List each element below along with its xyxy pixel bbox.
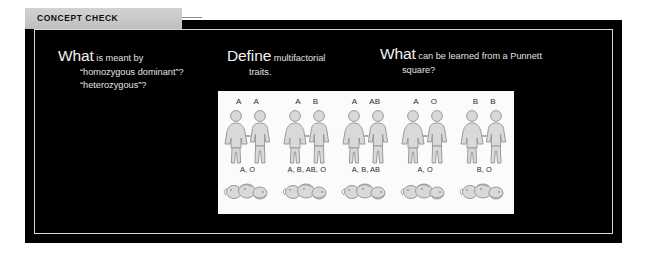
- parent-left-allele-3: A: [352, 97, 358, 107]
- offspring-blood-types-3: A, B, AB: [352, 165, 380, 175]
- slide-root: CONCEPT CHECK What is meant by “homozygo…: [0, 0, 647, 256]
- offspring-group-3: A, B, AB: [337, 165, 395, 202]
- offspring-baby-icon: [281, 176, 333, 202]
- parent-alleles-2: AB: [295, 97, 318, 107]
- question-1-line-2: “homozygous dominant”?: [80, 67, 238, 79]
- parent-right-allele-1: A: [254, 97, 260, 107]
- offspring-blood-types-5: B, O: [477, 165, 492, 175]
- question-2: Define multifactorial traits.: [227, 46, 367, 79]
- offspring-group-1: A, O: [219, 165, 277, 202]
- offspring-group-4: A, O: [396, 165, 454, 202]
- concept-check-tab-label: CONCEPT CHECK: [37, 13, 118, 23]
- offspring-group-5: B, O: [455, 165, 513, 202]
- parent-left-allele-5: B: [473, 97, 479, 107]
- parent-cross-5: BB: [455, 97, 513, 164]
- parent-couple-icon: [222, 108, 274, 164]
- question-2-lead: Define: [227, 47, 271, 64]
- question-3-line-2: square?: [402, 65, 595, 77]
- offspring-blood-types-2: A, B, AB, O: [288, 165, 326, 175]
- question-1: What is meant by “homozygous dominant”? …: [58, 46, 238, 92]
- offspring-baby-icon: [399, 176, 451, 202]
- parent-left-allele-4: A: [413, 97, 419, 107]
- parent-right-allele-4: O: [431, 97, 437, 107]
- parent-alleles-3: AAB: [352, 97, 381, 107]
- question-1-rest: is meant by: [94, 53, 144, 63]
- parent-couple-icon: [399, 108, 451, 164]
- parent-cross-3: AAB: [337, 97, 395, 164]
- question-1-lead: What: [58, 47, 94, 64]
- parent-right-allele-2: B: [313, 97, 319, 107]
- blood-type-inheritance-figure: AAABAABAOBB A, OA, B, AB, OA, B, ABA, OB…: [218, 91, 514, 214]
- parent-cross-1: AA: [219, 97, 277, 164]
- parent-right-allele-5: B: [490, 97, 496, 107]
- parent-alleles-1: AA: [236, 97, 259, 107]
- offspring-blood-types-4: A, O: [418, 165, 433, 175]
- offspring-baby-icon: [340, 176, 392, 202]
- parent-left-allele-1: A: [236, 97, 242, 107]
- parent-cross-4: AO: [396, 97, 454, 164]
- offspring-row: A, OA, B, AB, OA, B, ABA, OB, O: [218, 165, 514, 202]
- question-3-lead: What: [380, 45, 416, 62]
- parent-right-allele-3: AB: [369, 97, 380, 107]
- concept-check-tab: CONCEPT CHECK: [25, 8, 182, 29]
- parent-alleles-4: AO: [413, 97, 437, 107]
- parent-left-allele-2: A: [295, 97, 301, 107]
- question-2-rest: multifactorial: [271, 53, 325, 63]
- parents-row: AAABAABAOBB: [218, 97, 514, 164]
- offspring-baby-icon: [458, 176, 510, 202]
- question-1-line-3: “heterozygous”?: [80, 80, 238, 92]
- offspring-blood-types-1: A, O: [240, 165, 255, 175]
- tab-rule-divider: [182, 17, 202, 18]
- question-2-line-2: traits.: [249, 67, 367, 79]
- offspring-baby-icon: [222, 176, 274, 202]
- parent-couple-icon: [458, 108, 510, 164]
- offspring-group-2: A, B, AB, O: [278, 165, 336, 202]
- content-panel: What is meant by “homozygous dominant”? …: [25, 20, 622, 243]
- question-3: What can be learned from a Punnett squar…: [380, 44, 595, 77]
- parent-alleles-5: BB: [473, 97, 496, 107]
- parent-couple-icon: [281, 108, 333, 164]
- parent-couple-icon: [340, 108, 392, 164]
- question-3-rest: can be learned from a Punnett: [416, 51, 542, 61]
- parent-cross-2: AB: [278, 97, 336, 164]
